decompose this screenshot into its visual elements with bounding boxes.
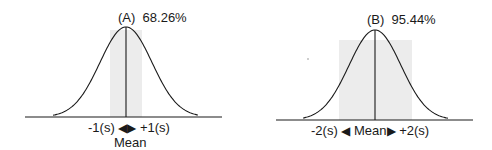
- arrow-right-icon: ▶: [127, 121, 136, 135]
- panel-b-title: (B) 95.44%: [367, 13, 436, 26]
- panel-b-mean-label: Mean: [354, 123, 387, 138]
- panel-a-left-label: -1(s): [88, 120, 115, 135]
- panel-b-right-label: +2(s): [399, 123, 429, 138]
- panel-b-chart: [276, 30, 473, 120]
- panel-b-title-percent: 95.44%: [392, 12, 436, 27]
- panel-a-mean-label: Mean: [114, 136, 147, 149]
- panel-a-chart: [25, 27, 222, 117]
- stray-dot: [307, 58, 308, 59]
- arrow-right-icon: ▶: [387, 124, 396, 138]
- panel-a-title-percent: 68.26%: [143, 10, 187, 25]
- panel-a-right-label: +1(s): [140, 120, 170, 135]
- panel-b-title-letter: (B): [367, 12, 384, 27]
- panel-a-title-letter: (A): [118, 10, 135, 25]
- arrow-left-icon: ◀: [341, 124, 350, 138]
- arrow-left-icon: ◀: [118, 121, 127, 135]
- panel-b-axis-labels: -2(s) ◀ Mean▶ +2(s): [311, 124, 429, 137]
- panel-a-axis-labels: -1(s) ◀▶ +1(s): [88, 121, 170, 134]
- panel-a-title: (A) 68.26%: [118, 11, 187, 24]
- panel-b-left-label: -2(s): [311, 123, 338, 138]
